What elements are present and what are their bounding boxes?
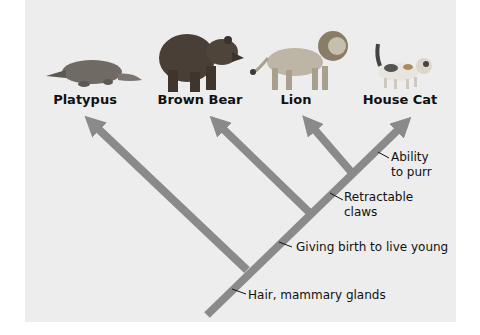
branch-lion: [309, 123, 353, 174]
trait-label-hair: Hair, mammary glands: [248, 288, 386, 303]
trait-label-purr-line1: Ability: [391, 150, 432, 165]
trait-label-claws: Retractable claws: [344, 190, 413, 220]
taxon-label-brown-bear: Brown Bear: [158, 92, 243, 107]
branch-platypus: [92, 123, 247, 270]
house-cat-icon: [377, 44, 432, 89]
taxon-label-lion: Lion: [281, 92, 312, 107]
trait-label-live-birth: Giving birth to live young: [296, 240, 448, 255]
taxon-label-platypus: Platypus: [53, 92, 117, 107]
brown-bear-icon: [159, 34, 244, 92]
tick-purr: [378, 152, 389, 158]
trait-label-purr-line2: to purr: [391, 165, 432, 180]
trait-label-claws-line1: Retractable: [344, 190, 413, 205]
branch-brown-bear: [217, 123, 311, 214]
trait-label-purr: Ability to purr: [391, 150, 432, 180]
lion-icon: [250, 31, 348, 90]
trait-label-claws-line2: claws: [344, 205, 413, 220]
taxon-label-house-cat: House Cat: [363, 92, 438, 107]
platypus-icon: [46, 60, 142, 87]
